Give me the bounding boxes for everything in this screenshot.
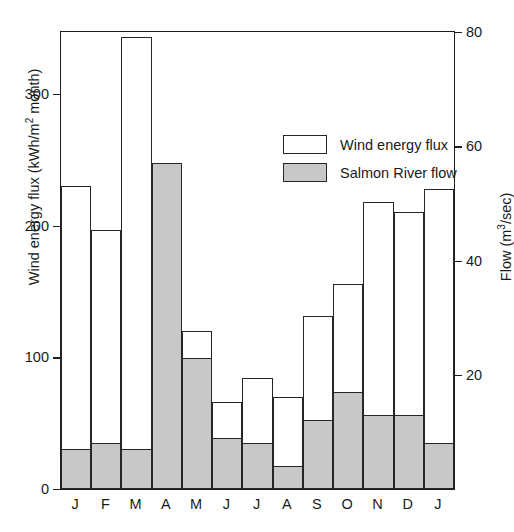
bar-salmon-river-flow [61,449,91,489]
bar-salmon-river-flow [333,392,363,489]
bar-salmon-river-flow [394,415,424,489]
x-tick-label-4: M [190,496,202,512]
bar-salmon-river-flow [212,438,242,489]
plot-area: 010020030020406080 [61,32,454,489]
bar-wind-energy-flux [61,186,91,489]
bar-salmon-river-flow [273,466,303,489]
right-tick-mark-40 [454,261,462,262]
legend-item-wind: Wind energy flux [283,135,457,154]
x-tick-label-1: F [101,496,110,512]
bar-wind-energy-flux [121,37,151,489]
left-tick-label-100: 100 [25,349,49,365]
bar-salmon-river-flow [121,449,151,489]
bar-salmon-river-flow [363,415,393,489]
x-tick-label-9: O [342,496,353,512]
left-tick-label-300: 300 [25,86,49,102]
x-tick-label-10: N [372,496,382,512]
x-tick-label-2: M [130,496,142,512]
left-axis-title-superscript: 2 [24,118,35,124]
x-tick-label-12: J [434,496,441,512]
bar-salmon-river-flow [303,420,333,489]
legend-swatch-wind-icon [283,135,327,154]
bar-salmon-river-flow [152,163,182,489]
legend-label-wind: Wind energy flux [340,137,448,153]
right-axis-title-tail: /sec) [498,193,514,224]
left-tick-mark-300 [53,94,61,95]
chart-legend: Wind energy flux Salmon River flow [283,135,457,191]
left-axis-title-main: Wind energy flux (kWh/m [26,123,42,285]
left-tick-mark-100 [53,357,61,358]
right-tick-label-60: 60 [466,138,482,154]
left-tick-mark-0 [53,489,61,490]
bar-salmon-river-flow [242,443,272,489]
right-tick-label-40: 40 [466,253,482,269]
x-tick-label-8: S [312,496,322,512]
x-tick-label-6: J [253,496,260,512]
legend-swatch-flow-icon [283,163,327,182]
bar-salmon-river-flow [424,443,454,489]
right-axis-title: Flow (m3/sec) [496,152,514,322]
bar-salmon-river-flow [182,358,212,489]
plot-frame: 010020030020406080 Wind energy flux Salm… [60,31,455,490]
x-axis-labels: JFMAMJJASONDJ [60,496,455,516]
x-tick-label-3: A [161,496,171,512]
x-tick-label-7: A [282,496,292,512]
left-tick-label-200: 200 [25,218,49,234]
left-tick-label-0: 0 [41,481,49,497]
x-tick-label-0: J [71,496,78,512]
x-tick-label-5: J [223,496,230,512]
right-axis-title-main: Flow (m [498,230,514,282]
right-axis-title-superscript: 3 [496,224,507,230]
bar-salmon-river-flow [91,443,121,489]
right-tick-mark-20 [454,375,462,376]
right-tick-mark-80 [454,32,462,33]
right-tick-label-20: 20 [466,367,482,383]
x-tick-label-11: D [402,496,412,512]
legend-item-flow: Salmon River flow [283,163,457,182]
right-tick-label-80: 80 [466,24,482,40]
cropped-caption-text [40,0,470,7]
legend-label-flow: Salmon River flow [340,165,457,181]
left-tick-mark-200 [53,226,61,227]
